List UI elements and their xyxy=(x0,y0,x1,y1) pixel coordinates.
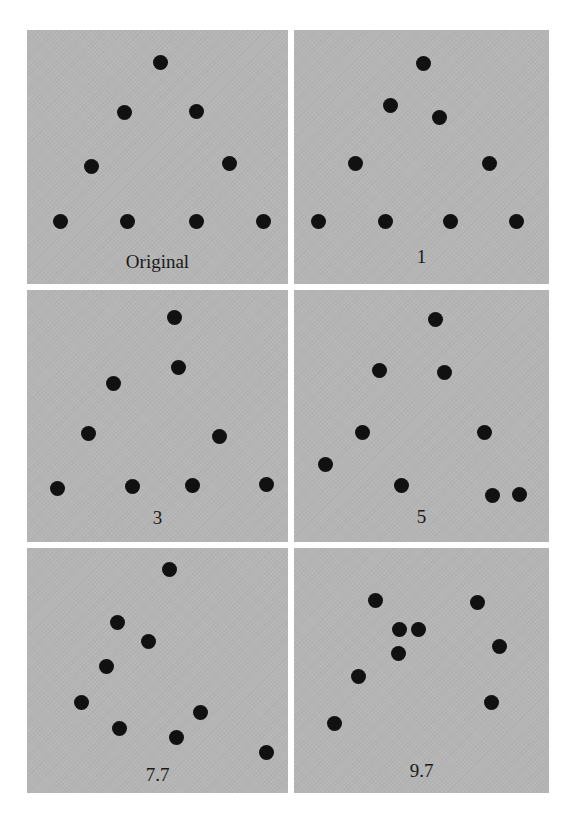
panel-label: 7.7 xyxy=(27,765,288,784)
dot-marker xyxy=(99,659,114,674)
dot-marker xyxy=(212,429,227,444)
dot-marker xyxy=(311,214,326,229)
dot-marker xyxy=(50,481,65,496)
dot-marker xyxy=(416,56,431,71)
dot-marker xyxy=(383,98,398,113)
dot-marker xyxy=(162,562,177,577)
dot-marker xyxy=(74,695,89,710)
dot-marker xyxy=(355,425,370,440)
dot-marker xyxy=(411,622,426,637)
dot-marker xyxy=(110,615,125,630)
dot-marker xyxy=(470,595,485,610)
dot-marker xyxy=(484,695,499,710)
panel-9-7: 9.7 xyxy=(294,548,549,793)
dot-marker xyxy=(482,156,497,171)
dot-marker xyxy=(492,639,507,654)
panel-5: 5 xyxy=(294,290,549,542)
dot-marker xyxy=(259,745,274,760)
panel-original: Original xyxy=(27,30,288,284)
dot-marker xyxy=(368,593,383,608)
dot-marker xyxy=(259,477,274,492)
dot-marker xyxy=(125,479,140,494)
dot-marker xyxy=(394,478,409,493)
dot-marker xyxy=(351,669,366,684)
dot-marker xyxy=(256,214,271,229)
dot-marker xyxy=(378,214,393,229)
dot-marker xyxy=(117,105,132,120)
dot-marker xyxy=(84,159,99,174)
dot-marker xyxy=(318,457,333,472)
panel-label: 1 xyxy=(294,247,549,266)
panel-label: 9.7 xyxy=(294,761,549,780)
panel-label: 3 xyxy=(27,508,288,527)
dot-marker xyxy=(222,156,237,171)
dot-marker xyxy=(437,365,452,380)
dot-marker xyxy=(153,55,168,70)
dot-marker xyxy=(120,214,135,229)
panel-7-7: 7.7 xyxy=(27,548,288,793)
dot-marker xyxy=(193,705,208,720)
dot-marker xyxy=(112,721,127,736)
dot-marker xyxy=(392,622,407,637)
dot-marker xyxy=(428,312,443,327)
dot-marker xyxy=(189,104,204,119)
dot-marker xyxy=(81,426,96,441)
panel-3: 3 xyxy=(27,290,288,542)
dot-marker xyxy=(443,214,458,229)
panel-label: Original xyxy=(27,252,288,271)
panel-label: 5 xyxy=(294,507,549,526)
dot-marker xyxy=(141,634,156,649)
dot-marker xyxy=(106,376,121,391)
dot-marker xyxy=(169,730,184,745)
dot-marker xyxy=(372,363,387,378)
dot-marker xyxy=(167,310,182,325)
dot-marker xyxy=(509,214,524,229)
dot-marker xyxy=(327,716,342,731)
dot-marker xyxy=(185,478,200,493)
panel-1: 1 xyxy=(294,30,549,284)
dot-marker xyxy=(432,110,447,125)
dot-marker xyxy=(477,425,492,440)
dot-marker xyxy=(391,646,406,661)
dot-marker xyxy=(189,214,204,229)
dot-marker xyxy=(512,487,527,502)
dot-marker xyxy=(53,214,68,229)
dot-marker xyxy=(348,156,363,171)
dot-marker xyxy=(171,360,186,375)
dot-marker xyxy=(485,488,500,503)
